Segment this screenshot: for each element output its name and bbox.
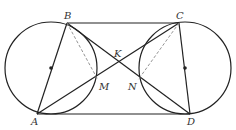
segment-ac <box>37 23 179 114</box>
label-k: K <box>113 48 122 59</box>
geometry-figure: B C A D K M N <box>0 0 236 130</box>
dashed-cn <box>138 23 179 80</box>
left-center-dot <box>49 66 53 70</box>
right-center-dot <box>183 66 187 70</box>
label-b: B <box>63 10 71 21</box>
label-m: M <box>98 81 110 92</box>
label-a: A <box>30 116 38 127</box>
label-n: N <box>127 81 138 92</box>
label-d: D <box>186 116 195 127</box>
label-c: C <box>176 10 184 21</box>
segment-bd <box>67 23 190 114</box>
